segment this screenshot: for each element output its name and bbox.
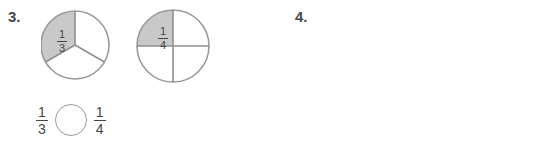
problem-3-number: 3. — [8, 8, 21, 25]
fourths-circle-model: 1 4 — [136, 9, 210, 83]
thirds-circle-svg — [41, 9, 111, 81]
problem-3-comparison: 1 3 1 4 — [36, 104, 106, 136]
comparison-3-right-fraction: 1 4 — [94, 105, 106, 136]
thirds-radius-lower-right — [75, 45, 104, 62]
comparison-3-left-numerator: 1 — [36, 105, 48, 121]
comparison-3-answer-circle[interactable] — [55, 104, 87, 136]
comparison-3-left-fraction: 1 3 — [36, 105, 48, 136]
worksheet-page: 3. 1 3 — [0, 0, 534, 146]
problem-3: 3. 1 3 — [0, 0, 267, 146]
comparison-3-right-denominator: 4 — [94, 121, 106, 136]
fourths-circle-svg — [136, 9, 210, 83]
comparison-3-right-numerator: 1 — [94, 105, 106, 121]
problem-4-number: 4. — [295, 8, 308, 25]
problem-4: 4. 1 6 1 6 — [267, 0, 534, 146]
comparison-3-left-denominator: 3 — [36, 121, 48, 136]
thirds-circle-model: 1 3 — [41, 9, 111, 81]
